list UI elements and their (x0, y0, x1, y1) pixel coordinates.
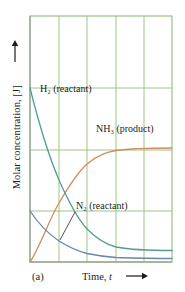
concentration-vs-time-plot (0, 0, 185, 292)
plot-background (30, 16, 172, 262)
figure-panel-a: H₂ (reactant) NH₃ (product) N₂ (reactant… (0, 0, 185, 292)
series-label-h2: H₂ (reactant) (40, 84, 92, 94)
y-axis-title: Molar concentration, [J] (12, 57, 23, 217)
series-label-nh3: NH₃ (product) (96, 124, 154, 134)
series-label-n2: N₂ (reactant) (76, 201, 128, 211)
x-axis-title: Time, t (82, 272, 112, 283)
x-axis-title-text: Time, t (82, 271, 112, 282)
x-axis-arrow-icon (126, 273, 148, 279)
panel-label: (a) (32, 272, 44, 283)
